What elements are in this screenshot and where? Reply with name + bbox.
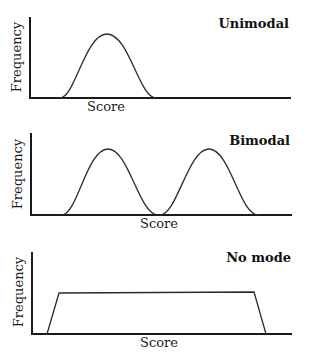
distribution-shapes-figure: Unimodal Score Frequency Bimodal Score F… <box>0 0 309 364</box>
bimodal-curve-left <box>62 149 158 215</box>
x-axis-label: Score <box>87 99 125 114</box>
y-axis-label: Frequency <box>11 256 26 327</box>
bimodal-curve-right <box>160 149 258 215</box>
panel-unimodal: Unimodal Score Frequency <box>9 16 291 114</box>
y-axis-label: Frequency <box>10 138 25 209</box>
no-mode-trapezoid <box>47 292 266 334</box>
x-axis-label: Score <box>140 216 178 231</box>
panel-title: Bimodal <box>229 133 290 148</box>
panel-bimodal: Bimodal Score Frequency <box>10 133 292 231</box>
x-axis-label: Score <box>140 335 178 350</box>
panel-no-mode: No mode Score Frequency <box>11 250 292 350</box>
unimodal-curve <box>60 34 156 98</box>
panel-title: Unimodal <box>218 16 289 31</box>
y-axis-label: Frequency <box>9 21 24 92</box>
panel-title: No mode <box>226 250 291 265</box>
